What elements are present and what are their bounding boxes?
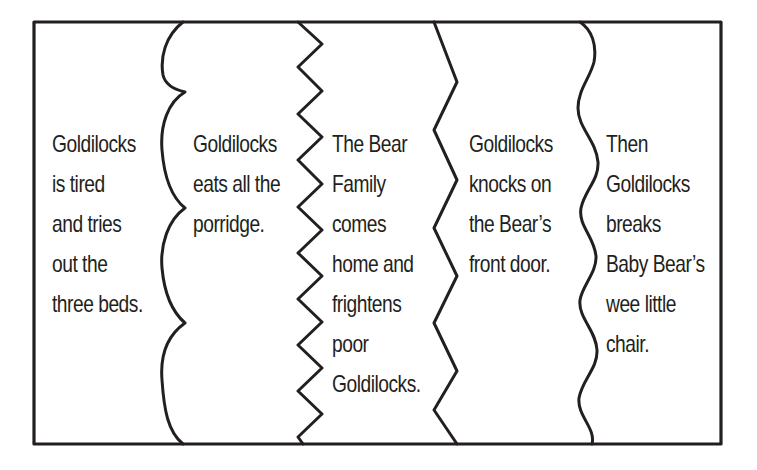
panel-3-line: poor bbox=[332, 324, 421, 364]
panel-1-line: and tries bbox=[52, 204, 143, 244]
panel-4-text: Goldilocks knocks on the Bear’s front do… bbox=[469, 124, 553, 284]
panel-2-line: eats all the bbox=[193, 164, 280, 204]
panel-4-line: knocks on bbox=[469, 164, 553, 204]
large-zigzag-divider bbox=[434, 22, 457, 444]
story-strip-diagram: Goldilocks is tired and tries out the th… bbox=[0, 0, 757, 470]
panel-5-line: Then bbox=[606, 124, 705, 164]
small-zigzag-divider bbox=[298, 22, 322, 444]
panel-4-line: front door. bbox=[469, 244, 553, 284]
panel-2-line: Goldilocks bbox=[193, 124, 280, 164]
panel-3-line: comes bbox=[332, 204, 421, 244]
panel-3-line: Family bbox=[332, 164, 421, 204]
panel-1-line: Goldilocks bbox=[52, 124, 143, 164]
panel-1-line: is tired bbox=[52, 164, 143, 204]
wavy-divider bbox=[578, 22, 598, 444]
scalloped-divider bbox=[162, 22, 185, 444]
panel-3-line: The Bear bbox=[332, 124, 421, 164]
panel-5-line: breaks bbox=[606, 204, 705, 244]
panel-5-line: wee little bbox=[606, 284, 705, 324]
panel-3-line: Goldilocks. bbox=[332, 364, 421, 404]
panel-5-line: Goldilocks bbox=[606, 164, 705, 204]
panel-4-line: the Bear’s bbox=[469, 204, 553, 244]
panel-3-line: frightens bbox=[332, 284, 421, 324]
panel-2-line: porridge. bbox=[193, 204, 280, 244]
panel-5-line: chair. bbox=[606, 324, 705, 364]
panel-1-text: Goldilocks is tired and tries out the th… bbox=[52, 124, 143, 324]
panel-3-line: home and bbox=[332, 244, 421, 284]
panel-5-text: Then Goldilocks breaks Baby Bear’s wee l… bbox=[606, 124, 705, 364]
panel-1-line: out the bbox=[52, 244, 143, 284]
panel-3-text: The Bear Family comes home and frightens… bbox=[332, 124, 421, 404]
panel-5-line: Baby Bear’s bbox=[606, 244, 705, 284]
panel-1-line: three beds. bbox=[52, 284, 143, 324]
panel-2-text: Goldilocks eats all the porridge. bbox=[193, 124, 280, 244]
panel-4-line: Goldilocks bbox=[469, 124, 553, 164]
